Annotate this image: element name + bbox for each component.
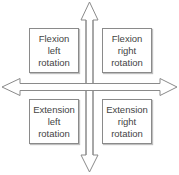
quadrant-label-line1: Extension bbox=[106, 104, 148, 116]
cross-arrows bbox=[0, 0, 179, 175]
quadrant-label-line2: right bbox=[118, 45, 136, 57]
quadrant-label-line1: Flexion bbox=[112, 33, 143, 45]
quadrant-label-line2: right bbox=[118, 116, 136, 128]
quadrant-label-line1: Flexion bbox=[39, 33, 70, 45]
quadrant-extension-left-rotation: Extension left rotation bbox=[29, 99, 79, 144]
quadrant-flexion-right-rotation: Flexion right rotation bbox=[102, 28, 152, 73]
quadrant-label-line3: rotation bbox=[111, 128, 143, 140]
quadrant-label-line1: Extension bbox=[33, 104, 75, 116]
quadrant-label-line3: rotation bbox=[38, 57, 70, 69]
quadrant-label-line3: rotation bbox=[38, 128, 70, 140]
quadrant-flexion-left-rotation: Flexion left rotation bbox=[29, 28, 79, 73]
quadrant-label-line3: rotation bbox=[111, 57, 143, 69]
quadrant-label-line2: left bbox=[48, 116, 61, 128]
quadrant-extension-right-rotation: Extension right rotation bbox=[102, 99, 152, 144]
quadrant-label-line2: left bbox=[48, 45, 61, 57]
